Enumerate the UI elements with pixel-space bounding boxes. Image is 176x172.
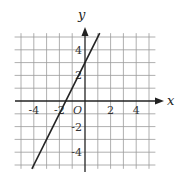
y-tick-label: 4 (75, 44, 82, 57)
y-tick-label: -4 (71, 146, 82, 159)
axes (15, 27, 164, 172)
y-tick-label: -2 (71, 121, 82, 134)
y-axis-label: y (77, 7, 86, 22)
origin-label: O (73, 104, 82, 117)
x-axis-label: x (167, 93, 175, 108)
x-axis-arrow-icon (155, 98, 164, 105)
y-axis-arrow-icon (82, 27, 89, 36)
x-tick-label: 2 (107, 104, 114, 117)
x-tick-label: -4 (28, 104, 39, 117)
x-tick-label: 4 (133, 104, 140, 117)
coordinate-plane: -4-22442-2-4 x y O (0, 0, 176, 172)
